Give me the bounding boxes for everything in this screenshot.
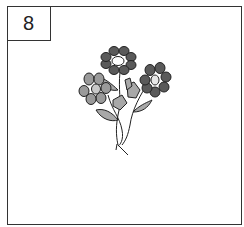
right-flower-icon: [140, 63, 171, 98]
left-flower-icon: [79, 73, 111, 105]
top-flower-icon: [101, 47, 136, 75]
flower-bouquet-illustration: [0, 0, 244, 227]
